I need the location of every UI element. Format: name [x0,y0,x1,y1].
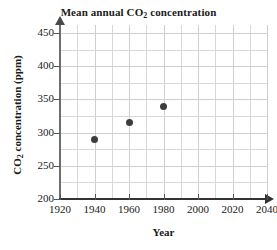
x-axis-tick [267,194,268,200]
y-axis-tick-label: 400 [20,59,54,71]
y-axis-tick-label: 300 [20,126,54,138]
x-axis-tick [164,194,165,200]
y-axis-tick-label: 250 [20,159,54,171]
y-axis-title-subscript: 2 [16,154,25,158]
y-axis-title-text-before: CO [11,158,23,175]
gridline-horizontal [60,182,267,183]
gridline-horizontal [60,116,267,117]
gridline-vertical [250,25,251,199]
data-point [160,103,167,110]
y-axis-tick [54,33,60,34]
gridline-vertical [181,25,182,199]
y-axis-tick [54,133,60,134]
data-point [126,119,133,126]
x-axis-tick [95,194,96,200]
gridline-vertical [95,25,96,199]
gridline-vertical [112,25,113,199]
gridline-vertical [233,25,234,199]
gridline-vertical [77,25,78,199]
chart-title-text-before: Mean annual CO [61,6,144,18]
gridline-vertical [215,25,216,199]
gridline-horizontal [60,50,267,51]
gridlines [60,25,267,199]
y-axis-tick [54,99,60,100]
gridline-vertical [164,25,165,199]
y-axis-tick [54,166,60,167]
y-axis-line [59,23,61,200]
x-axis-tick [60,194,61,200]
gridline-horizontal [60,166,267,167]
gridline-horizontal [60,33,267,34]
y-axis-title: CO2 concentration (ppm) [11,35,25,195]
y-axis-title-text-after: concentration (ppm) [11,55,23,154]
x-axis-tick [233,194,234,200]
gridline-vertical [146,25,147,199]
gridline-horizontal [60,66,267,67]
gridline-horizontal [60,133,267,134]
x-axis-tick [198,194,199,200]
chart-title-text-after: concentration [147,6,216,18]
x-axis-tick-label: 2040 [247,203,277,215]
x-axis-tick [129,194,130,200]
y-axis-tick-label: 350 [20,92,54,104]
gridline-vertical [198,25,199,199]
gridline-vertical [129,25,130,199]
y-axis-tick-label: 450 [20,26,54,38]
gridline-horizontal [60,149,267,150]
gridline-horizontal [60,99,267,100]
plot-area [60,25,267,199]
chart-screenshot: Mean annual CO2 concentration 2002503003… [0,0,277,250]
y-axis-arrow-icon [55,16,65,25]
y-axis-tick [54,66,60,67]
gridline-vertical [267,25,268,199]
data-point [91,136,98,143]
x-axis-title: Year [60,226,267,238]
gridline-horizontal [60,83,267,84]
chart-title: Mean annual CO2 concentration [0,6,277,20]
